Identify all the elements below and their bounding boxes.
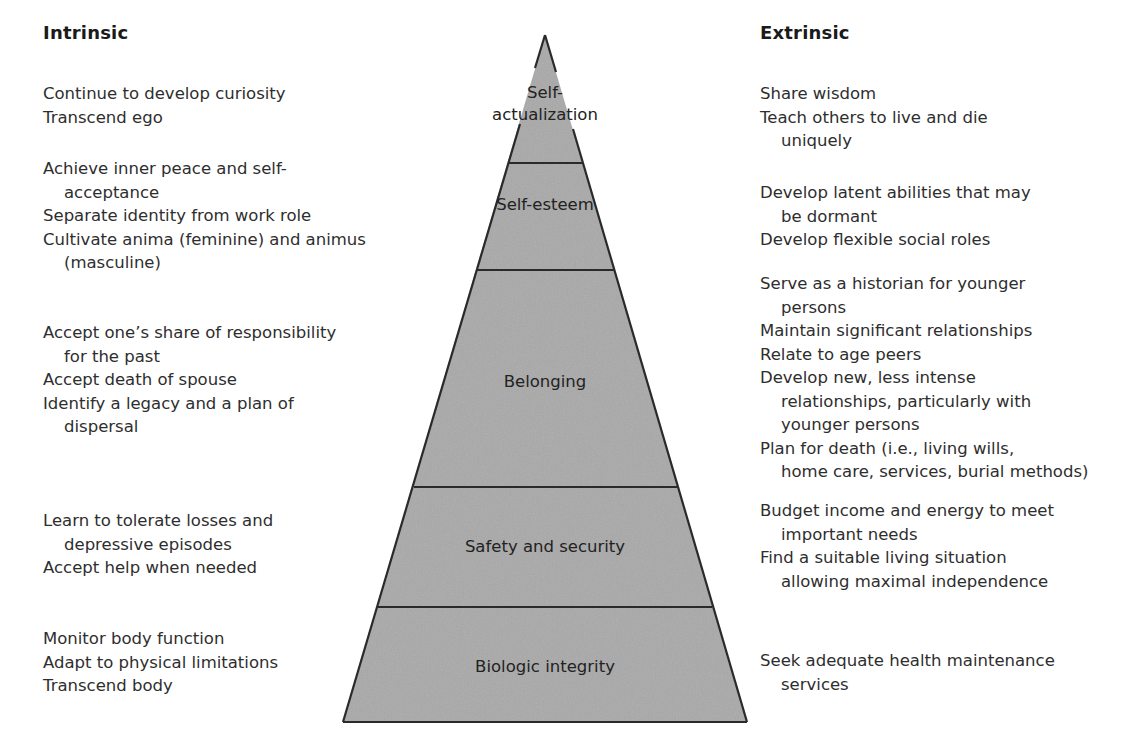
list-item-text: Teach others to live and die [760,108,988,127]
tier-label-self-actualization: Self- actualization [492,82,598,126]
list-item-continuation: younger persons [760,413,1088,437]
list-item: Share wisdom [760,82,988,106]
extrinsic-column: Share wisdom Teach others to live and di… [760,0,1120,752]
list-item-text: Monitor body function [43,629,224,648]
tier-label-safety-and-security: Safety and security [465,535,625,559]
list-item: Cultivate anima (feminine) and animus (m… [43,228,366,275]
list-item-text: Adapt to physical limitations [43,653,278,672]
list-item-text: Develop new, less intense [760,368,976,387]
list-item: Transcend ego [43,106,286,130]
list-item-continuation: home care, services, burial methods) [760,460,1088,484]
list-item-text: Find a suitable living situation [760,548,1007,567]
list-item: Find a suitable living situation allowin… [760,546,1054,593]
list-item-continuation: persons [760,296,1088,320]
list-item: Identify a legacy and a plan of dispersa… [43,392,336,439]
list-item-continuation: services [760,673,1055,697]
list-item-text: Achieve inner peace and self- [43,159,287,178]
intrinsic-group-self-actualization: Continue to develop curiosity Transcend … [43,82,286,129]
list-item-continuation: be dormant [760,205,1031,229]
list-item: Accept help when needed [43,556,273,580]
list-item: Achieve inner peace and self- acceptance [43,157,366,204]
list-item: Accept one’s share of responsibility for… [43,321,336,368]
tier-label-self-actualization-line2: actualization [492,104,598,126]
list-item-text: Cultivate anima (feminine) and animus [43,230,366,249]
list-item-continuation: for the past [43,345,336,369]
list-item: Seek adequate health maintenance service… [760,649,1055,696]
extrinsic-group-self-esteem: Develop latent abilities that may be dor… [760,181,1031,252]
tier-label-biologic-integrity: Biologic integrity [475,655,615,679]
tier-label-self-actualization-line1: Self- [492,82,598,104]
list-item-continuation: important needs [760,523,1054,547]
list-item: Maintain significant relationships [760,319,1088,343]
list-item: Teach others to live and die uniquely [760,106,988,153]
list-item-continuation: relationships, particularly with [760,390,1088,414]
list-item: Develop new, less intense relationships,… [760,366,1088,437]
list-item-continuation: acceptance [43,181,366,205]
list-item: Separate identity from work role [43,204,366,228]
intrinsic-group-self-esteem: Achieve inner peace and self- acceptance… [43,157,366,275]
list-item-text: Plan for death (i.e., living wills, [760,439,1014,458]
list-item-text: Budget income and energy to meet [760,501,1054,520]
extrinsic-group-self-actualization: Share wisdom Teach others to live and di… [760,82,988,153]
list-item-text: Serve as a historian for younger [760,274,1025,293]
list-item-text: Separate identity from work role [43,206,311,225]
list-item: Budget income and energy to meet importa… [760,499,1054,546]
list-item-continuation: (masculine) [43,251,366,275]
list-item-text: Identify a legacy and a plan of [43,394,294,413]
list-item-text: Transcend ego [43,108,163,127]
list-item-continuation: depressive episodes [43,533,273,557]
intrinsic-group-belonging: Accept one’s share of responsibility for… [43,321,336,439]
list-item: Monitor body function [43,627,278,651]
list-item-text: Learn to tolerate losses and [43,511,273,530]
extrinsic-group-biologic: Seek adequate health maintenance service… [760,649,1055,696]
list-item-text: Relate to age peers [760,345,921,364]
extrinsic-group-safety: Budget income and energy to meet importa… [760,499,1054,593]
list-item-text: Transcend body [43,676,173,695]
list-item-continuation: dispersal [43,415,336,439]
list-item: Serve as a historian for younger persons [760,272,1088,319]
list-item: Relate to age peers [760,343,1088,367]
list-item: Develop latent abilities that may be dor… [760,181,1031,228]
list-item: Plan for death (i.e., living wills, home… [760,437,1088,484]
list-item: Learn to tolerate losses and depressive … [43,509,273,556]
list-item-text: Accept help when needed [43,558,257,577]
list-item: Accept death of spouse [43,368,336,392]
tier-label-self-esteem: Self-esteem [496,193,594,217]
tier-label-belonging: Belonging [504,370,587,394]
list-item-text: Develop flexible social roles [760,230,990,249]
list-item-text: Share wisdom [760,84,876,103]
list-item-continuation: allowing maximal independence [760,570,1054,594]
list-item-continuation: uniquely [760,129,988,153]
list-item-text: Continue to develop curiosity [43,84,286,103]
list-item-text: Accept one’s share of responsibility [43,323,336,342]
intrinsic-column: Continue to develop curiosity Transcend … [43,0,373,752]
list-item-text: Develop latent abilities that may [760,183,1031,202]
list-item-text: Seek adequate health maintenance [760,651,1055,670]
list-item-text: Maintain significant relationships [760,321,1032,340]
intrinsic-group-biologic: Monitor body function Adapt to physical … [43,627,278,698]
list-item: Adapt to physical limitations [43,651,278,675]
intrinsic-group-safety: Learn to tolerate losses and depressive … [43,509,273,580]
extrinsic-group-belonging: Serve as a historian for younger persons… [760,272,1088,484]
list-item-text: Accept death of spouse [43,370,237,389]
list-item: Transcend body [43,674,278,698]
list-item: Continue to develop curiosity [43,82,286,106]
list-item: Develop flexible social roles [760,228,1031,252]
